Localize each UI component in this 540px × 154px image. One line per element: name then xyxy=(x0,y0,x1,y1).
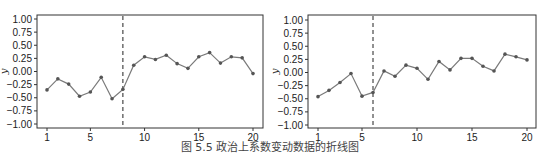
left-line-chart: 1.000.750.500.250.00−0.25−0.50−0.75−1.00… xyxy=(0,14,263,144)
y-tick-label: 0.75 xyxy=(13,27,33,38)
y-axis-label: y xyxy=(269,68,280,75)
data-point xyxy=(154,58,158,62)
data-point xyxy=(525,58,529,62)
data-point xyxy=(132,63,136,67)
data-point xyxy=(197,55,201,59)
data-point xyxy=(143,55,147,59)
data-point xyxy=(219,61,223,65)
data-point xyxy=(67,82,71,86)
y-tick-label: −1.00 xyxy=(7,119,33,130)
y-axis-label: y xyxy=(0,68,9,75)
data-point xyxy=(316,95,320,99)
plot-frame xyxy=(37,15,263,128)
data-point xyxy=(78,94,82,98)
data-point xyxy=(99,75,103,79)
data-point xyxy=(415,67,419,71)
data-point xyxy=(492,69,496,73)
figure-caption: 图 5.5 政治上系数变动数据的折线图 xyxy=(0,141,540,154)
data-point xyxy=(393,74,397,78)
data-point xyxy=(45,88,49,92)
data-point xyxy=(481,64,485,68)
data-point xyxy=(327,89,331,93)
data-point xyxy=(186,67,190,71)
data-point xyxy=(448,68,452,72)
y-tick-label: 0.75 xyxy=(284,28,304,39)
data-point xyxy=(426,78,430,82)
series-line xyxy=(47,53,253,99)
data-point xyxy=(503,52,507,56)
data-point xyxy=(404,63,408,67)
y-tick-label: −0.75 xyxy=(7,105,33,116)
data-point xyxy=(371,91,375,95)
y-tick-label: 1.00 xyxy=(284,15,304,26)
data-point xyxy=(164,53,168,57)
data-point xyxy=(175,62,179,66)
y-tick-label: −0.75 xyxy=(278,106,304,117)
data-point xyxy=(459,57,463,61)
y-tick-label: 0.00 xyxy=(284,67,304,78)
data-point xyxy=(110,97,114,101)
right-line-chart: 1.000.750.500.250.00−0.25−0.50−0.75−1.00… xyxy=(269,15,536,144)
data-point xyxy=(437,60,441,64)
y-tick-label: −0.25 xyxy=(278,80,304,91)
data-point xyxy=(251,72,255,76)
y-tick-label: 1.00 xyxy=(13,14,33,25)
y-tick-label: 0.50 xyxy=(13,40,33,51)
data-point xyxy=(230,55,234,59)
data-point xyxy=(514,55,518,59)
data-point xyxy=(56,77,60,81)
data-point xyxy=(89,90,93,94)
data-point xyxy=(360,94,364,98)
data-point xyxy=(349,72,353,76)
data-point xyxy=(470,57,474,61)
series-line xyxy=(318,54,527,97)
y-tick-label: −0.50 xyxy=(278,93,304,104)
data-point xyxy=(382,69,386,73)
y-tick-label: −0.50 xyxy=(7,92,33,103)
y-tick-label: −0.25 xyxy=(7,79,33,90)
y-tick-label: 0.00 xyxy=(13,66,33,77)
plot-frame xyxy=(308,15,536,128)
y-tick-label: 0.25 xyxy=(13,53,33,64)
y-tick-label: −1.00 xyxy=(278,120,304,131)
data-point xyxy=(240,56,244,60)
y-tick-label: 0.25 xyxy=(284,54,304,65)
data-point xyxy=(121,88,125,92)
figure: 1.000.750.500.250.00−0.25−0.50−0.75−1.00… xyxy=(0,0,540,154)
data-point xyxy=(208,51,212,55)
data-point xyxy=(338,81,342,85)
y-tick-label: 0.50 xyxy=(284,41,304,52)
